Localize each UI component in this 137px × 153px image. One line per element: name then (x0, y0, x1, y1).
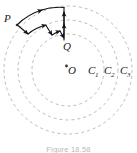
path-arc-middle (28, 25, 46, 34)
label-c2: C 2 (104, 64, 115, 79)
label-c3-sub: 3 (126, 71, 131, 79)
label-c1-sub: 1 (95, 71, 99, 79)
path-radial-1 (18, 26, 28, 35)
label-o: O (68, 64, 76, 76)
concentric-circles-diagram: P Q O C 1 C 2 C 3 (0, 0, 137, 153)
label-p: P (3, 12, 11, 24)
label-c1: C 1 (88, 64, 99, 79)
path-radial-2 (46, 26, 52, 36)
path-arc-outer-2 (40, 7, 64, 10)
figure-caption: Figure 18.58 (0, 145, 137, 153)
path-arc-outer (17, 10, 42, 25)
label-c3: C 3 (120, 64, 131, 79)
figure-container: P Q O C 1 C 2 C 3 Figure 18.58 (0, 0, 137, 153)
label-c2-sub: 2 (111, 71, 115, 79)
label-q: Q (63, 40, 71, 52)
path-arc-inner (52, 31, 60, 35)
